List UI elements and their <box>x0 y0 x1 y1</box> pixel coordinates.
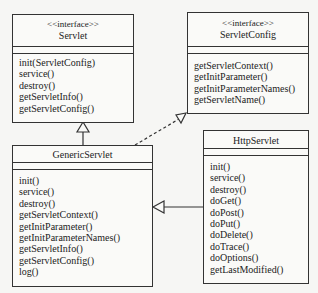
operation: doOptions() <box>210 252 308 263</box>
hollow-triangle-arrow-icon <box>176 113 186 123</box>
operation: service() <box>19 186 152 197</box>
operation: getServletConfig() <box>19 255 152 266</box>
class-title: <<interface>> Servlet <box>13 15 133 47</box>
operation: getServletInfo() <box>19 91 133 102</box>
class-title: GenericServlet <box>13 146 152 163</box>
operation: service() <box>210 172 308 183</box>
class-name: Servlet <box>13 30 133 41</box>
class-title: HttpServlet <box>204 131 308 149</box>
operation: getServletInfo() <box>19 243 152 254</box>
operations-compartment: getServletContext() getInitParameter() g… <box>188 54 308 106</box>
operation: destroy() <box>210 184 308 195</box>
operation: getInitParameter() <box>19 221 152 232</box>
operation: destroy() <box>19 198 152 209</box>
attributes-compartment <box>188 47 308 54</box>
class-genericservlet[interactable]: GenericServlet init() service() destroy(… <box>12 145 153 287</box>
operation: getServletName() <box>194 94 308 105</box>
hollow-triangle-arrow-icon <box>153 201 164 213</box>
operation: init(ServletConfig) <box>19 57 133 68</box>
operation: getLastModified() <box>210 264 308 275</box>
operation: destroy() <box>19 80 133 91</box>
attributes-compartment <box>204 149 308 156</box>
operations-compartment: init(ServletConfig) service() destroy() … <box>13 54 133 114</box>
operations-compartment: init() service() destroy() doGet() doPos… <box>204 156 308 275</box>
operation: doGet() <box>210 195 308 206</box>
attributes-compartment <box>13 47 133 54</box>
operation: doDelete() <box>210 229 308 240</box>
stereotype-label: <<interface>> <box>13 19 133 30</box>
hollow-triangle-arrow-icon <box>77 122 89 132</box>
class-httpservlet[interactable]: HttpServlet init() service() destroy() d… <box>203 130 309 284</box>
operation: service() <box>19 68 133 79</box>
class-title: <<interface>> ServletConfig <box>188 13 308 47</box>
operation: getInitParameter() <box>194 71 308 82</box>
stereotype-label: <<interface>> <box>188 18 308 29</box>
operation: doPost() <box>210 207 308 218</box>
class-name: GenericServlet <box>13 149 152 160</box>
class-name: HttpServlet <box>204 135 308 146</box>
operation: init() <box>19 175 152 186</box>
attributes-compartment <box>13 163 152 170</box>
operation: getServletContext() <box>194 60 308 71</box>
operations-compartment: init() service() destroy() getServletCon… <box>13 170 152 278</box>
operation: getInitParameterNames() <box>194 83 308 94</box>
class-servlet[interactable]: <<interface>> Servlet init(ServletConfig… <box>12 14 134 123</box>
operation: doPut() <box>210 218 308 229</box>
operation: doTrace() <box>210 241 308 252</box>
operation: getInitParameterNames() <box>19 232 152 243</box>
class-servletconfig[interactable]: <<interface>> ServletConfig getServletCo… <box>187 12 309 114</box>
dashed-realization-line-servletconfig <box>135 119 179 145</box>
operation: getServletContext() <box>19 209 152 220</box>
operation: init() <box>210 161 308 172</box>
class-name: ServletConfig <box>188 29 308 40</box>
operation: log() <box>19 266 152 277</box>
operation: getServletConfig() <box>19 103 133 114</box>
